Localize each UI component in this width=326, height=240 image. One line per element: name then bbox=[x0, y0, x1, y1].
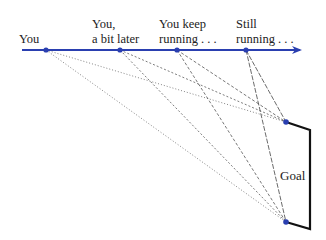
label-keep-running-line2: running . . . bbox=[159, 32, 217, 46]
position-point-still-running bbox=[243, 47, 248, 52]
label-bit-later-line2: a bit later bbox=[92, 32, 139, 46]
label-goal: Goal bbox=[280, 169, 305, 183]
goal-post-bottom bbox=[283, 219, 289, 225]
position-point-bit-later bbox=[117, 47, 122, 52]
sight-lines-bit-later bbox=[120, 50, 286, 222]
sight-lines-keep-running bbox=[177, 50, 286, 222]
label-still-running-line1: Still bbox=[236, 17, 257, 31]
label-still-running-line2: running . . . bbox=[236, 32, 294, 46]
goal-post-top bbox=[283, 119, 289, 125]
position-point-you bbox=[43, 47, 48, 52]
sight-lines-you bbox=[46, 50, 286, 222]
label-you: You bbox=[19, 32, 39, 46]
label-bit-later-line1: You, bbox=[92, 17, 115, 31]
sight-lines-still-running bbox=[246, 50, 286, 222]
label-keep-running-line1: You keep bbox=[159, 17, 206, 31]
position-point-keep-running bbox=[174, 47, 179, 52]
